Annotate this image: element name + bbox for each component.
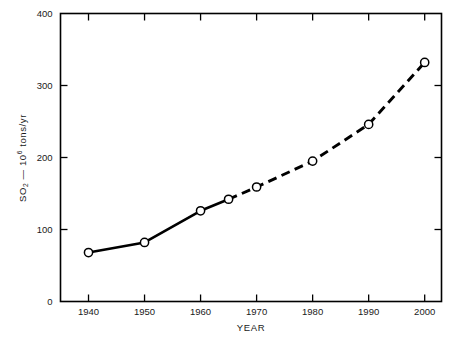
x-tick-label: 1960: [190, 306, 211, 317]
data-point-marker: [309, 157, 317, 165]
data-point-marker: [84, 248, 92, 256]
data-point-marker: [140, 238, 148, 246]
data-point-marker: [196, 207, 204, 215]
data-point-marker: [224, 195, 232, 203]
chart-figure: 1940195019601970198019902000 01002003004…: [0, 0, 460, 337]
y-tick-label: 400: [37, 8, 53, 19]
x-tick-label: 1970: [246, 306, 267, 317]
data-point-marker: [421, 58, 429, 66]
x-tick-label: 1940: [78, 306, 99, 317]
data-point-marker: [253, 183, 261, 191]
y-axis-title: SO2 — 106 tons/yr: [16, 114, 29, 202]
y-tick-label: 200: [37, 152, 53, 163]
x-axis-title: YEAR: [237, 322, 265, 333]
y-tick-label: 100: [37, 224, 53, 235]
x-tick-label: 2000: [414, 306, 435, 317]
x-tick-label: 1950: [134, 306, 155, 317]
chart-background: [0, 0, 460, 337]
y-tick-label: 0: [47, 296, 52, 307]
y-axis-title-text: SO2 — 106 tons/yr: [16, 114, 29, 202]
y-tick-label: 300: [37, 80, 53, 91]
x-tick-label: 1980: [302, 306, 323, 317]
data-point-marker: [365, 120, 373, 128]
x-tick-label: 1990: [358, 306, 379, 317]
so2-emissions-line-chart: 1940195019601970198019902000 01002003004…: [0, 0, 460, 337]
